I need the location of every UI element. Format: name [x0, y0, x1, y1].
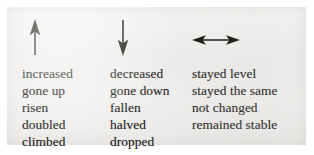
- list-item: stayed the same: [192, 82, 278, 99]
- arrow-up-icon: [22, 19, 48, 57]
- column-no-change: stayed level stayed the same not changed…: [192, 19, 304, 73]
- vocabulary-figure: increased gone up risen doubled climbed …: [0, 0, 314, 155]
- list-item: fallen: [110, 99, 170, 116]
- list-item: stayed level: [192, 65, 278, 82]
- list-item: decreased: [110, 65, 170, 82]
- list-item: halved: [110, 116, 170, 133]
- word-list-increase: increased gone up risen doubled climbed: [22, 65, 73, 150]
- list-item: climbed: [22, 133, 73, 150]
- list-item: increased: [22, 65, 73, 82]
- list-item: risen: [22, 99, 73, 116]
- list-item: doubled: [22, 116, 73, 133]
- arrow-up-slot: [22, 19, 110, 59]
- arrow-down-slot: [110, 19, 192, 59]
- word-list-no-change: stayed level stayed the same not changed…: [192, 65, 278, 133]
- arrow-down-icon: [110, 19, 136, 57]
- figure-panel: increased gone up risen doubled climbed …: [7, 7, 306, 145]
- list-item: remained stable: [192, 116, 278, 133]
- list-item: gone up: [22, 82, 73, 99]
- list-item: not changed: [192, 99, 278, 116]
- list-item: gone down: [110, 82, 170, 99]
- column-decrease: decreased gone down fallen halved droppe…: [110, 19, 192, 59]
- list-item: dropped: [110, 133, 170, 150]
- word-list-decrease: decreased gone down fallen halved droppe…: [110, 65, 170, 150]
- column-increase: increased gone up risen doubled climbed: [22, 19, 110, 59]
